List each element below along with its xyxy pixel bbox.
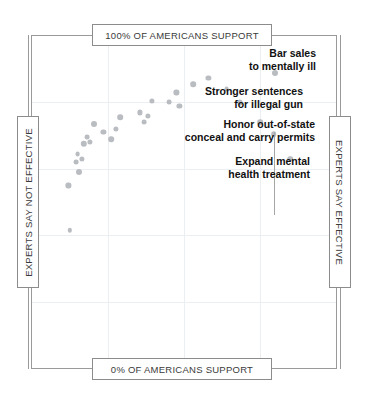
annotation-bar-sales-to-mentally-ill: Bar sales to mentally ill (249, 47, 316, 72)
connector-stub-left-upper (28, 35, 29, 116)
axis-label-bottom: 0% OF AMERICANS SUPPORT (92, 358, 272, 380)
connector-stub-left-lower (28, 288, 29, 369)
data-point (166, 100, 171, 105)
data-point (80, 156, 85, 161)
axis-label-top: 100% OF AMERICANS SUPPORT (92, 24, 272, 46)
annotation-honor-out-of-state-conceal-and-carry-permits: Honor out-of-state conceal and carry per… (185, 118, 315, 143)
data-point (177, 103, 182, 108)
axis-label-bottom-text: 0% OF AMERICANS SUPPORT (111, 364, 253, 375)
data-point (190, 81, 196, 87)
annotation-expand-mental-health-treatment: Expand mental health treatment (228, 155, 310, 180)
gridline-horizontal (32, 302, 336, 303)
axis-label-left-text: EXPERTS SAY NOT EFFECTIVE (23, 128, 34, 277)
gridline-horizontal (32, 235, 336, 236)
connector-stub-top-right (272, 35, 337, 36)
data-point (174, 90, 179, 95)
data-point (74, 160, 79, 165)
data-point (117, 115, 123, 121)
data-point (66, 183, 71, 188)
connector-stub-right-upper (340, 35, 341, 116)
connector-stub-top-left (31, 35, 92, 36)
data-point (68, 228, 72, 232)
scatter-chart: 100% OF AMERICANS SUPPORT 0% OF AMERICAN… (0, 0, 370, 402)
data-point (75, 151, 80, 156)
data-point (149, 98, 154, 103)
data-point (142, 120, 147, 125)
connector-stub-right-lower (340, 288, 341, 369)
data-point (101, 130, 106, 135)
data-point (80, 141, 86, 147)
data-point (76, 169, 82, 175)
axis-label-left: EXPERTS SAY NOT EFFECTIVE (17, 116, 39, 288)
connector-stub-bottom-right (272, 368, 337, 369)
data-point (145, 113, 150, 118)
data-point (91, 121, 97, 127)
connector-stub-bottom-left (31, 368, 92, 369)
axis-label-right-text: EXPERTS SAY EFFECTIVE (335, 139, 346, 264)
data-point (108, 136, 114, 142)
annotation-stronger-sentences-for-illegal-gun: Stronger sentences for illegal gun (205, 85, 303, 110)
axis-label-right: EXPERTS SAY EFFECTIVE (329, 116, 351, 288)
data-point (87, 140, 92, 145)
data-point (113, 126, 118, 131)
data-point (206, 75, 211, 80)
axis-label-top-text: 100% OF AMERICANS SUPPORT (105, 30, 258, 41)
data-point (137, 110, 142, 115)
gridline-vertical (184, 36, 185, 368)
gridline-vertical (108, 36, 109, 368)
